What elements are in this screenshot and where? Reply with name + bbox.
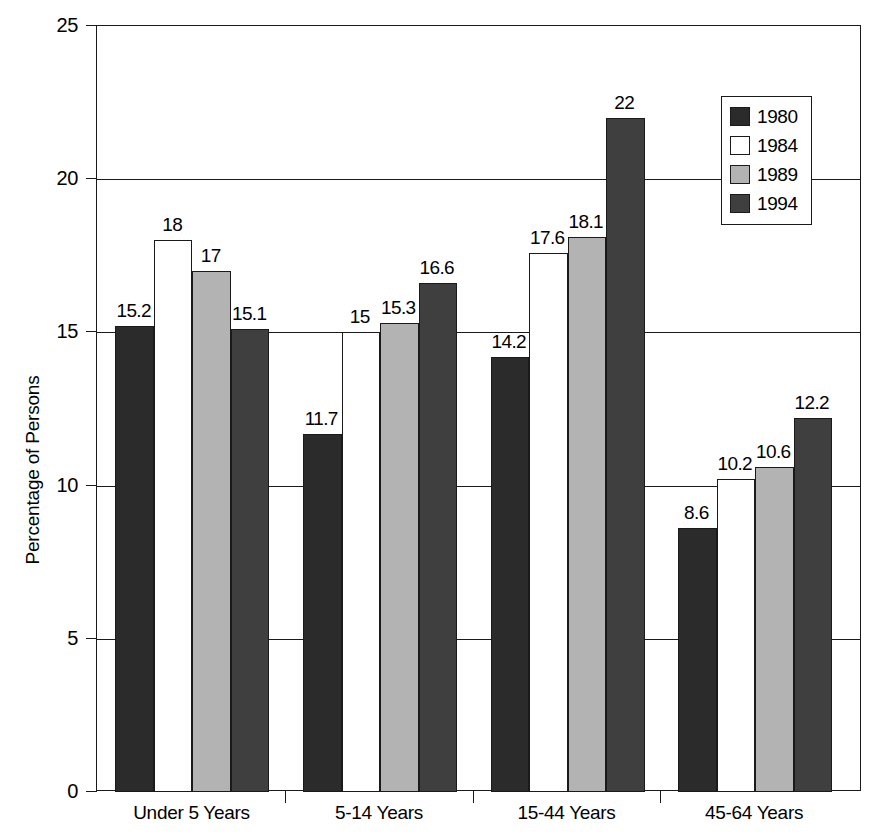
bar [380,323,419,792]
bar [678,528,717,792]
x-axis-label: 15-44 Years [477,800,657,826]
bar-value-label: 15.1 [224,304,275,323]
bar [568,237,607,792]
y-axis-title: Percentage of Persons [16,250,50,690]
bar-value-label: 16.6 [412,258,463,277]
bar [192,271,231,792]
bar-value-label: 11.7 [296,409,347,428]
legend-item: 1984 [730,132,798,158]
x-axis-tick [660,791,661,803]
bar-value-label: 18.1 [561,212,612,231]
bar [755,467,794,792]
bar [717,479,756,792]
bar-value-label: 15.3 [373,298,424,317]
x-axis-tick [473,791,474,803]
bar [154,240,193,792]
y-axis-tick [86,791,97,792]
bar-chart: Percentage of Persons 0510152025 15.2181… [0,0,891,840]
y-axis-label: 10 [32,475,78,495]
x-axis-label: 5-14 Years [289,800,469,826]
bar-value-label: 18 [147,215,198,234]
x-axis-label: 45-64 Years [664,800,844,826]
y-axis-label: 25 [32,15,78,35]
legend-item-label: 1989 [757,165,798,184]
bar-value-label: 22 [599,93,650,112]
legend-swatch-icon [730,165,750,184]
bar [231,329,270,792]
legend-item: 1980 [730,103,798,129]
legend-item-label: 1984 [757,136,798,155]
bar [794,418,833,792]
legend-item-label: 1994 [757,194,798,213]
bar [115,326,154,792]
bar [606,118,645,792]
x-axis-tick [285,791,286,803]
bar-value-label: 14.2 [484,332,535,351]
legend-item: 1994 [730,190,798,216]
bar [419,283,458,792]
bar [342,332,381,792]
y-axis-label: 20 [32,168,78,188]
legend-item: 1989 [730,161,798,187]
y-axis-label: 5 [32,628,78,648]
legend-item-label: 1980 [757,107,798,126]
bar-value-label: 8.6 [671,503,722,522]
bar-value-label: 15.2 [108,301,159,320]
bar [491,357,530,792]
y-axis-label: 15 [32,321,78,341]
legend-swatch-icon [730,194,750,213]
legend-swatch-icon [730,107,750,126]
x-axis-label: Under 5 Years [101,800,281,826]
bar [303,434,342,792]
legend-swatch-icon [730,136,750,155]
bar-value-label: 17 [185,246,236,265]
legend: 1980198419891994 [721,96,812,225]
bar-value-label: 10.6 [748,442,799,461]
y-axis-label: 0 [32,781,78,801]
bar-value-label: 12.2 [787,393,838,412]
bar [529,253,568,792]
